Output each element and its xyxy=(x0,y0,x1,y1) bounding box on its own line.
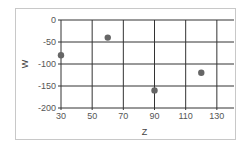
x-tick-label: 70 xyxy=(118,111,128,121)
x-axis-label: Z xyxy=(142,127,148,137)
scatter-chart: 0-50-100-150-20030507090110130ZW xyxy=(0,0,247,152)
data-point xyxy=(105,34,111,40)
data-point xyxy=(58,52,64,58)
y-tick-label: -100 xyxy=(38,59,56,69)
y-tick-label: -150 xyxy=(38,81,56,91)
x-tick-label: 110 xyxy=(179,111,193,121)
data-point xyxy=(198,70,204,76)
x-tick-label: 90 xyxy=(150,111,160,121)
y-tick-label: -50 xyxy=(43,37,56,47)
y-tick-label: 0 xyxy=(51,15,56,25)
y-axis-label: W xyxy=(20,59,30,68)
data-point xyxy=(151,87,157,93)
x-tick-label: 30 xyxy=(56,111,66,121)
y-tick-label: -200 xyxy=(38,103,56,113)
x-tick-label: 50 xyxy=(87,111,97,121)
x-tick-label: 130 xyxy=(209,111,224,121)
